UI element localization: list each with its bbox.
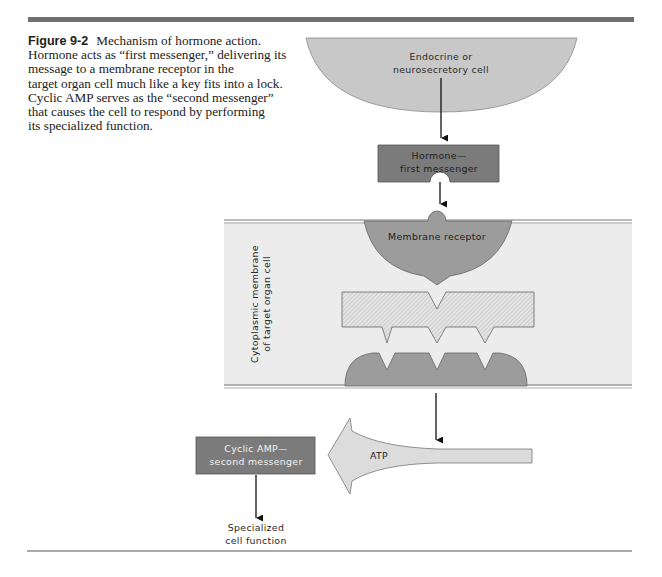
- endocrine-cell-label-2: neurosecretory cell: [393, 64, 489, 75]
- top-rule: [28, 17, 634, 22]
- cyclic-amp-label-2: second messenger: [209, 456, 302, 467]
- result-label-2: cell function: [225, 535, 286, 546]
- membrane-label-1: Cytoplasmic membrane: [249, 245, 260, 363]
- membrane-receptor-label: Membrane receptor: [388, 231, 486, 242]
- membrane-label-2: of target organ cell: [261, 256, 272, 352]
- hormone-label-2: first messenger: [400, 163, 478, 174]
- atp-arrow-shape: [328, 418, 532, 494]
- hormone-label-1: Hormone—: [412, 150, 467, 161]
- hormone-mechanism-diagram: Endocrine or neurosecretory cell Hormone…: [0, 0, 662, 577]
- atp-label: ATP: [370, 450, 388, 461]
- membrane-label: Cytoplasmic membrane of target organ cel…: [249, 245, 272, 363]
- result-label-1: Specialized: [228, 522, 284, 533]
- endocrine-cell-label-1: Endocrine or: [409, 51, 472, 62]
- cyclic-amp-label-1: Cyclic AMP—: [224, 443, 287, 454]
